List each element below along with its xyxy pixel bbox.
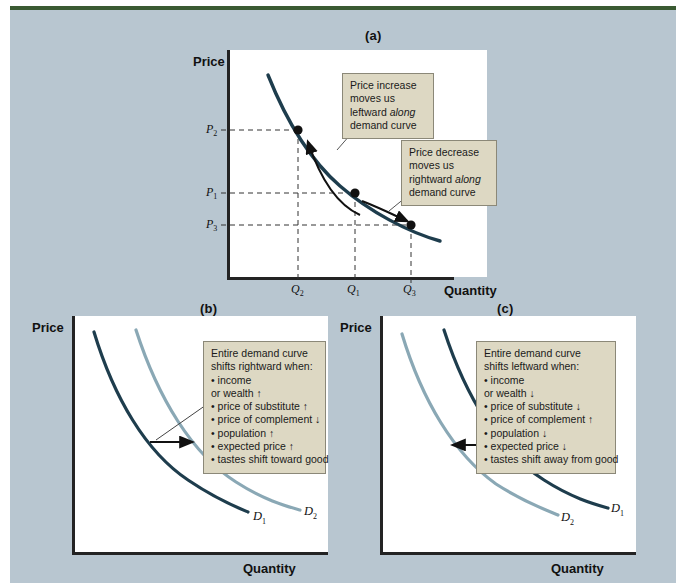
panel-c-curve-label-d1: D1 (611, 501, 624, 518)
panel-c-graphics (10, 10, 676, 583)
panel-c-curve-label-d2: D2 (561, 510, 574, 527)
panel-c-callout-shift-leftward: Entire demand curve shifts leftward when… (476, 341, 616, 474)
figure-container: (a) Price Quantity P2 P1 P3 Q2 Q1 Q3 (10, 6, 676, 583)
